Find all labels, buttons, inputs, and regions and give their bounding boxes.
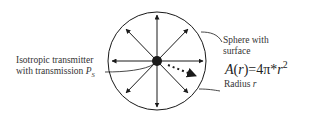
- radius-leader-line: [199, 89, 220, 91]
- arrow-up-right: [157, 29, 188, 61]
- arrow-up-left: [126, 29, 157, 61]
- transmitter-leader-line: [105, 64, 154, 72]
- sphere-label-line2: surface: [223, 46, 269, 57]
- transmitter-label-line1: Isotropic transmitter: [16, 55, 95, 66]
- radius-dotted-arrow: [168, 65, 196, 76]
- surface-area-formula: A(r)=4π*r2: [225, 57, 288, 78]
- sphere-label: Sphere with surface: [223, 35, 269, 57]
- arrow-down-right: [157, 61, 188, 93]
- sphere-label-line1: Sphere with: [223, 35, 269, 46]
- transmitter-label-line2: with transmission PS: [16, 66, 95, 80]
- arrow-down-left: [126, 61, 157, 93]
- transmitter-label: Isotropic transmitter with transmission …: [16, 55, 95, 80]
- sphere-leader-line: [201, 32, 222, 42]
- radius-label: Radius r: [224, 79, 256, 90]
